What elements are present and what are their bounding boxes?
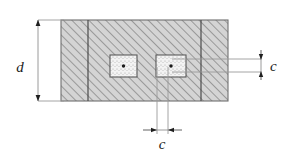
depth-dimension: d bbox=[16, 20, 64, 101]
spacing-dimension-label: c bbox=[159, 136, 166, 152]
right-cavity bbox=[156, 55, 186, 77]
right-cavity-center-dot bbox=[169, 64, 172, 67]
cross-section-diagram: d c c bbox=[0, 0, 295, 153]
hatched-section bbox=[61, 20, 228, 101]
left-cavity bbox=[110, 55, 137, 77]
left-cavity-center-dot bbox=[122, 64, 125, 67]
cover-dimension-label: c bbox=[270, 58, 277, 74]
figure-container: d c c bbox=[0, 0, 295, 153]
depth-dimension-label: d bbox=[16, 59, 24, 75]
